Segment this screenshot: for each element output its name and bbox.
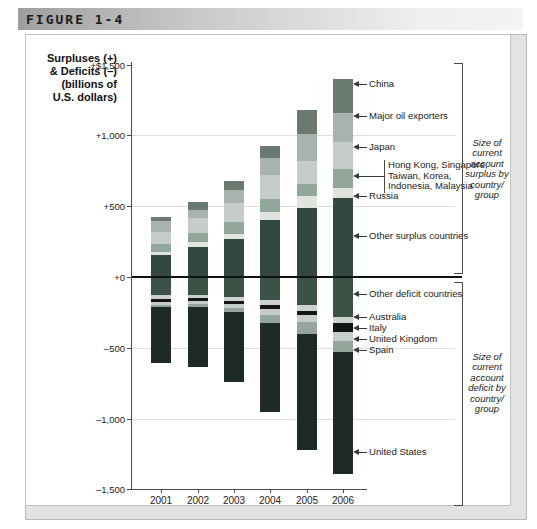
bar-segment xyxy=(151,244,171,251)
gridline xyxy=(131,206,455,207)
surplus-caption: Size ofcurrentaccountsurplus bycountry/g… xyxy=(451,138,523,200)
bar-segment xyxy=(188,277,208,295)
deficit-bracket-tick-top xyxy=(454,282,463,283)
bar-segment xyxy=(333,332,353,341)
bar-segment xyxy=(297,277,317,305)
x-tick-label: 2006 xyxy=(326,495,360,506)
bar-segment xyxy=(333,341,353,352)
leader-line xyxy=(357,236,367,237)
y-tick xyxy=(127,419,131,420)
y-tick xyxy=(127,348,131,349)
bar-segment xyxy=(260,199,280,212)
deficit-caption: Size ofcurrentaccountdeficit bycountry/g… xyxy=(451,352,523,414)
y-tick-label: +0 xyxy=(73,272,125,283)
bar-segment xyxy=(224,222,244,234)
x-axis-line xyxy=(131,489,367,490)
bar-segment xyxy=(333,277,353,317)
leader-line xyxy=(357,452,367,453)
leader-line xyxy=(357,317,367,318)
leader-line xyxy=(357,176,384,177)
bar-segment xyxy=(333,142,353,168)
bar-segment xyxy=(260,175,280,199)
annotation-label: Australia xyxy=(369,311,406,322)
bar-segment xyxy=(297,208,317,277)
bar-segment xyxy=(297,161,317,184)
bar-segment xyxy=(333,169,353,188)
y-tick xyxy=(127,65,131,66)
x-tick-label: 2004 xyxy=(253,495,287,506)
bar-segment xyxy=(333,323,353,331)
surplus-caption-line: group xyxy=(451,190,523,200)
bar-segment xyxy=(260,158,280,175)
annotation-label: Spain xyxy=(369,344,394,355)
bar-segment xyxy=(151,221,171,232)
x-tick-label: 2005 xyxy=(290,495,324,506)
bar-segment xyxy=(297,196,317,208)
bar-segment xyxy=(188,307,208,366)
bar-segment xyxy=(333,352,353,474)
y-tick-label: –1,500 xyxy=(73,484,125,495)
bar-segment xyxy=(297,134,317,161)
deficit-bracket-tick-bottom xyxy=(454,505,463,506)
annotation-label: United Kingdom xyxy=(369,333,437,344)
annotation-label: Other deficit countries xyxy=(369,288,462,299)
bar-segment xyxy=(224,190,244,203)
y-tick-label: +500 xyxy=(73,201,125,212)
bar-segment xyxy=(151,307,171,362)
bar-segment xyxy=(224,277,244,297)
surplus-bracket-tick-top xyxy=(454,63,463,64)
bar-segment xyxy=(188,202,208,210)
y-tick xyxy=(127,277,131,278)
annotation-label: Italy xyxy=(369,322,387,333)
y-axis-line xyxy=(131,62,132,490)
bar-segment xyxy=(224,181,244,189)
bar-segment xyxy=(297,184,317,196)
annotation-label: Other surplus countries xyxy=(369,230,468,241)
bar-segment xyxy=(151,252,171,256)
x-tick-label: 2003 xyxy=(217,495,251,506)
annotation-label: Taiwan, Korea, xyxy=(388,170,451,181)
bar-segment xyxy=(297,334,317,450)
bar-segment xyxy=(151,277,171,295)
leader-line xyxy=(357,196,367,197)
annotation-label: United States xyxy=(369,446,427,457)
bar-segment xyxy=(188,218,208,234)
bar-segment xyxy=(151,217,171,221)
annotation-label: Russia xyxy=(369,190,398,201)
bar-segment xyxy=(224,239,244,277)
x-tick-label: 2002 xyxy=(181,495,215,506)
leader-line xyxy=(357,147,367,148)
leader-line xyxy=(357,116,367,117)
leader-line xyxy=(357,328,367,329)
bar-segment xyxy=(151,255,171,277)
bar-segment xyxy=(333,188,353,199)
bar-segment xyxy=(260,146,280,158)
chart-layer: 200120022003200420052006+$1,500+1,000+50… xyxy=(0,0,537,529)
bar-segment xyxy=(297,110,317,134)
label-group-bracket xyxy=(384,160,385,193)
y-tick-label: +1,000 xyxy=(73,130,125,141)
leader-line xyxy=(357,84,367,85)
annotation-label: China xyxy=(369,78,394,89)
bar-segment xyxy=(224,203,244,222)
deficit-caption-line: group xyxy=(451,404,523,414)
bar-segment xyxy=(297,322,317,334)
y-tick-label: –500 xyxy=(73,343,125,354)
y-tick xyxy=(127,135,131,136)
bar-segment xyxy=(333,198,353,277)
leader-line xyxy=(357,339,367,340)
bar-segment xyxy=(260,212,280,220)
bar-segment xyxy=(260,315,280,323)
bar-segment xyxy=(297,315,317,322)
bar-segment xyxy=(151,232,171,245)
bar-segment xyxy=(260,323,280,412)
bar-segment xyxy=(224,312,244,381)
bar-segment xyxy=(188,233,208,242)
bar-segment xyxy=(333,113,353,143)
gridline xyxy=(131,348,455,349)
bar-segment xyxy=(188,210,208,218)
y-tick xyxy=(127,489,131,490)
x-tick-label: 2001 xyxy=(144,495,178,506)
y-tick-label: +$1,500 xyxy=(73,60,125,71)
bar-segment xyxy=(260,220,280,277)
